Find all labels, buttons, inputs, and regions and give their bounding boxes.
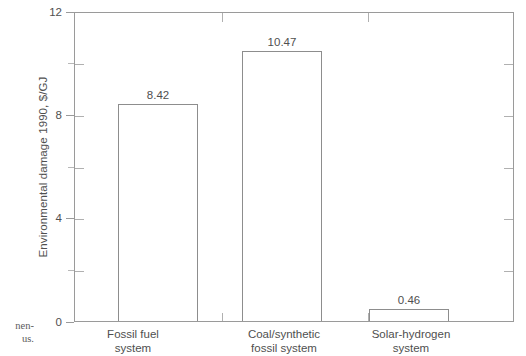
bar-chart-figure: Environmental damage 1990, $/GJ 12 8 4 0 <box>0 0 526 356</box>
y-axis-title: Environmental damage 1990, $/GJ <box>34 12 52 322</box>
plot-tick-right <box>504 271 513 272</box>
bar-fossil-fuel-system[interactable] <box>118 104 198 322</box>
plot-tick-left <box>75 168 84 169</box>
x-axis-category-line: Coal/synthetic <box>222 327 346 341</box>
y-axis-major-tick <box>66 12 74 13</box>
plot-tick-right <box>504 116 513 117</box>
x-axis-category-line: fossil system <box>222 341 346 355</box>
bar-solar-hydrogen-system[interactable] <box>369 309 449 321</box>
x-axis-category-label: Solar-hydrogen system <box>348 327 474 355</box>
plot-tick-top <box>368 13 369 22</box>
y-axis-major-tick <box>66 218 74 219</box>
y-axis-tick-label: 4 <box>40 212 62 224</box>
x-axis-category-line: Solar-hydrogen <box>348 327 474 341</box>
x-axis-category-line: system <box>348 341 474 355</box>
plot-tick-left <box>75 219 84 220</box>
plot-tick-bottom <box>222 313 223 321</box>
x-axis-category-line: Fossil fuel <box>77 327 189 341</box>
y-axis-tick-label: 12 <box>40 6 62 18</box>
bar-value-label: 10.47 <box>242 36 322 49</box>
y-axis-tick-label: 8 <box>40 109 62 121</box>
plot-tick-left <box>75 64 84 65</box>
x-axis-category-line: system <box>77 341 189 355</box>
y-axis-major-tick <box>66 322 74 323</box>
plot-area: 8.42 10.47 0.46 <box>74 12 514 322</box>
plot-tick-top <box>222 13 223 22</box>
plot-tick-right <box>504 168 513 169</box>
plot-tick-right <box>504 64 513 65</box>
bar-coal-synthetic-fossil-system[interactable] <box>242 51 322 322</box>
caption-fragment: nen- us. <box>0 320 34 345</box>
plot-tick-right <box>504 219 513 220</box>
bar-value-label: 8.42 <box>118 89 198 102</box>
y-axis-major-tick <box>66 115 74 116</box>
caption-fragment-line: nen- <box>0 320 34 333</box>
plot-tick-left <box>75 271 84 272</box>
plot-tick-left <box>75 116 84 117</box>
bar-value-label: 0.46 <box>369 294 449 307</box>
caption-fragment-line: us. <box>0 333 34 346</box>
x-axis-category-label: Fossil fuel system <box>77 327 189 355</box>
y-axis-tick-label: 0 <box>40 316 62 328</box>
x-axis-category-label: Coal/synthetic fossil system <box>222 327 346 355</box>
